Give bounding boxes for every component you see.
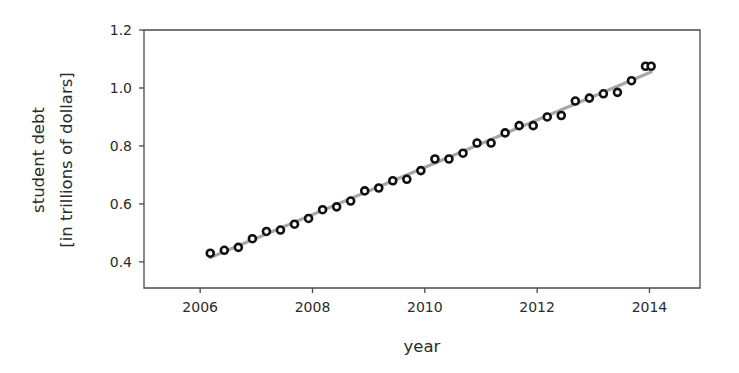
data-point [347, 198, 354, 205]
data-point [459, 150, 466, 157]
y-axis-tick-labels: 0.40.60.81.01.2 [110, 22, 132, 270]
x-tick-label: 2012 [519, 299, 555, 315]
x-axis-label: year [404, 337, 441, 356]
y-tick-label: 0.6 [110, 196, 132, 212]
data-point [558, 112, 565, 119]
y-tick-label: 1.2 [110, 22, 132, 38]
data-point [417, 167, 424, 174]
data-point [600, 90, 607, 97]
data-point [305, 215, 312, 222]
x-tick-label: 2006 [182, 299, 218, 315]
x-axis-ticks [200, 288, 649, 293]
x-tick-label: 2008 [295, 299, 331, 315]
data-point [375, 184, 382, 191]
data-point [207, 250, 214, 257]
data-point [586, 95, 593, 102]
data-point [249, 235, 256, 242]
data-point [361, 187, 368, 194]
data-point [488, 140, 495, 147]
data-point [544, 113, 551, 120]
data-point [389, 177, 396, 184]
data-point [572, 98, 579, 105]
y-axis-ticks [139, 30, 144, 262]
chart-canvas: 20062008201020122014 0.40.60.81.01.2 yea… [0, 0, 739, 373]
x-axis-tick-labels: 20062008201020122014 [182, 299, 667, 315]
plot-area: 20062008201020122014 0.40.60.81.01.2 [110, 22, 700, 315]
data-point [516, 122, 523, 129]
student-debt-chart-figure: 20062008201020122014 0.40.60.81.01.2 yea… [0, 0, 739, 373]
data-point [648, 63, 655, 70]
y-tick-label: 0.8 [110, 138, 132, 154]
y-tick-label: 0.4 [110, 254, 132, 270]
data-point [431, 156, 438, 163]
y-tick-label: 1.0 [110, 80, 132, 96]
data-point [614, 89, 621, 96]
data-point [445, 156, 452, 163]
data-point [502, 129, 509, 136]
data-point [235, 244, 242, 251]
data-point [474, 140, 481, 147]
y-axis-label-line1: student debt [29, 107, 48, 213]
data-point [403, 176, 410, 183]
data-point [319, 206, 326, 213]
data-point [277, 227, 284, 234]
y-axis-label-line2: [in trillions of dollars] [57, 72, 76, 248]
data-point [291, 221, 298, 228]
data-point [530, 122, 537, 129]
data-point [333, 203, 340, 210]
data-point [221, 247, 228, 254]
x-tick-label: 2010 [407, 299, 443, 315]
data-point [263, 228, 270, 235]
data-point [628, 77, 635, 84]
x-tick-label: 2014 [632, 299, 668, 315]
